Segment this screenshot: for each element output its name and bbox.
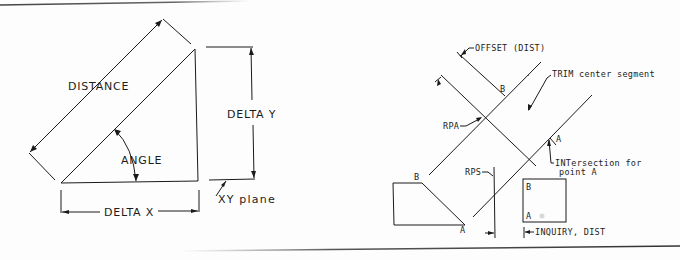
- delta-y-dimension-line-upper: [251, 48, 252, 100]
- inquiry-arrow-icon: [525, 230, 530, 234]
- delta-x-arrow-right-icon: [191, 209, 198, 213]
- left-figure: DISTANCE ANGLE DELTA Y XY plane: [29, 19, 276, 219]
- top-rule: [0, 1, 250, 5]
- box-b-label: B: [526, 182, 531, 192]
- xy-plane-label: XY plane: [218, 193, 276, 206]
- document-page: DISTANCE ANGLE DELTA Y XY plane: [0, 0, 680, 260]
- offset-tick-top: [457, 52, 462, 58]
- distance-label: DISTANCE: [68, 80, 129, 93]
- diagram-canvas: DISTANCE ANGLE DELTA Y XY plane: [0, 0, 680, 260]
- distance-extension-top: [163, 19, 191, 44]
- offset-label: OFFSET (DIST): [475, 43, 545, 53]
- polygon-shape: [393, 183, 465, 225]
- box-point-marker: [540, 214, 545, 219]
- intersection-label-line2: point A: [559, 167, 597, 177]
- delta-x-arrow-left-icon: [62, 210, 69, 214]
- rpa-arrow-icon: [476, 117, 482, 122]
- delta-y-extension-bottom: [209, 179, 255, 180]
- delta-y-label: DELTA Y: [227, 108, 276, 121]
- triangle-base: [61, 181, 198, 183]
- right-figure: OFFSET (DIST) B TRIM center segment RPA …: [393, 43, 655, 238]
- delta-y-dimension-line-lower: [253, 125, 254, 178]
- rps-vertical-line: [494, 167, 495, 238]
- point-b-top-label: B: [500, 84, 505, 94]
- rps-leader: [482, 172, 493, 176]
- xy-plane-arrow-icon: [221, 181, 226, 187]
- perpendicular-line-offset: [460, 55, 505, 96]
- trim-label: TRIM center segment: [552, 69, 655, 79]
- rps-label: RPS: [465, 167, 481, 177]
- delta-x-label: DELTA X: [104, 206, 154, 219]
- polygon-a-label: A: [460, 225, 465, 235]
- rpa-label: RPA: [443, 121, 459, 131]
- rps-arrow-icon: [488, 231, 494, 235]
- point-a-right-label: A: [556, 134, 561, 144]
- triangle-vertical-side: [195, 49, 198, 181]
- box-a-label: A: [526, 211, 531, 221]
- distance-extension-bottom: [29, 153, 55, 180]
- angle-arrow-bottom-icon: [133, 174, 139, 181]
- bottom-rule: [180, 246, 680, 251]
- inquiry-label: INQUIRY, DIST: [535, 227, 605, 237]
- angle-label: ANGLE: [121, 154, 162, 167]
- trim-leader-line: [529, 75, 551, 110]
- polygon-b-label: B: [414, 172, 419, 182]
